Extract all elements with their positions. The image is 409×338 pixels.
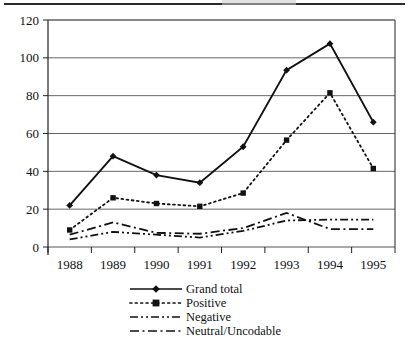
chart-legend: Grand total Positive Negative [0,282,409,338]
x-axis-tick-label: 1989 [100,257,126,270]
legend-key-positive [128,296,184,310]
data-point-marker [284,137,289,142]
legend-key-neutral-uncodable [128,324,184,338]
data-point-marker [153,172,160,179]
data-point-marker [154,201,159,206]
y-axis-tick-label: 100 [20,50,40,65]
data-point-marker [197,204,202,209]
legend-label-neutral-uncodable: Neutral/Uncodable [184,324,281,338]
x-axis-tick-label: 1988 [57,257,83,270]
y-axis-tick-label: 120 [20,13,40,28]
data-point-marker [327,90,332,95]
series-grand-total [66,40,376,209]
line-chart: 0204060801001201988198919901991199219931… [0,8,409,270]
legend-label-positive: Positive [184,296,226,310]
y-axis-tick-label: 40 [26,164,39,179]
data-point-marker [67,227,72,232]
y-axis-tick-label: 20 [26,202,39,217]
x-axis-tick-label: 1992 [230,257,256,270]
series-line [70,220,374,240]
series-line [70,44,374,206]
data-point-marker [371,166,376,171]
y-axis-tick-label: 80 [26,88,39,103]
chart-plot-area: 0204060801001201988198919901991199219931… [0,8,409,270]
series-negative [70,220,374,240]
x-axis-tick-label: 1993 [274,257,300,270]
legend-label-grand-total: Grand total [184,282,243,296]
series-positive [67,90,376,233]
legend-key-negative [128,310,184,324]
x-axis-tick-label: 1994 [317,257,344,270]
data-point-marker [110,195,115,200]
legend-label-negative: Negative [184,310,231,324]
legend-item-positive: Positive [0,296,409,310]
y-axis-tick-label: 60 [26,126,39,141]
legend-item-grand-total: Grand total [0,282,409,296]
x-axis-tick-label: 1995 [360,257,386,270]
legend-item-negative: Negative [0,310,409,324]
top-horizontal-rule [4,3,405,5]
legend-item-neutral-uncodable: Neutral/Uncodable [0,324,409,338]
y-axis-tick-label: 0 [33,240,40,255]
x-axis-tick-label: 1991 [187,257,213,270]
data-point-marker [240,190,245,195]
scan-artifact-smudge [222,0,296,5]
x-axis-tick-label: 1990 [143,257,169,270]
legend-key-grand-total [128,282,184,296]
figure-container: 0204060801001201988198919901991199219931… [0,0,409,338]
